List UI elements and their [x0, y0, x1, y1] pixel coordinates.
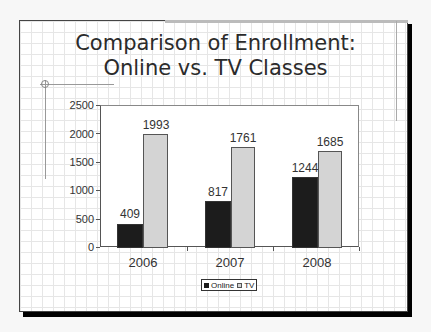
- legend-swatch-tv: [237, 283, 242, 288]
- y-tick: [96, 190, 100, 191]
- y-tick: [96, 105, 100, 106]
- guide-line-right: [396, 21, 397, 121]
- y-tick: [96, 247, 100, 248]
- y-tick: [96, 219, 100, 220]
- data-label: 817: [198, 185, 238, 199]
- slide-top-edge: [165, 20, 408, 23]
- y-tick: [96, 133, 100, 134]
- legend-swatch-online: [204, 283, 209, 288]
- slide-title: Comparison of Enrollment: Online vs. TV …: [40, 31, 391, 81]
- slide-shadow-bottom: [23, 312, 412, 317]
- slide-shadow-right: [408, 24, 412, 317]
- y-tick-label: 1000: [64, 184, 94, 196]
- x-tick: [359, 247, 360, 251]
- crosshair-icon: [41, 80, 49, 88]
- y-tick-label: 500: [64, 213, 94, 225]
- bar-online-2006: [117, 224, 143, 248]
- chart-legend: Online TV: [201, 279, 257, 291]
- x-category-label: 2006: [113, 255, 173, 270]
- legend-label-tv: TV: [244, 281, 254, 290]
- y-tick: [96, 162, 100, 163]
- data-label: 1244: [285, 161, 325, 175]
- x-category-label: 2007: [200, 255, 260, 270]
- bar-online-2007: [205, 201, 231, 248]
- y-tick-label: 1500: [64, 156, 94, 168]
- y-tick-label: 0: [64, 241, 94, 253]
- legend-label-online: Online: [211, 281, 234, 290]
- guide-line-vertical: [45, 80, 46, 179]
- y-tick-label: 2000: [64, 128, 94, 140]
- data-label: 1685: [310, 135, 350, 149]
- data-label: 409: [110, 207, 150, 221]
- guide-line-horizontal: [40, 84, 114, 85]
- data-label: 1993: [136, 118, 176, 132]
- x-category-label: 2008: [287, 255, 347, 270]
- title-line-1: Comparison of Enrollment:: [40, 31, 391, 56]
- bar-tv-2006: [143, 134, 168, 248]
- bar-online-2008: [292, 177, 318, 248]
- y-tick-label: 2500: [64, 99, 94, 111]
- x-tick: [187, 247, 188, 251]
- x-tick: [273, 247, 274, 251]
- title-line-2: Online vs. TV Classes: [40, 56, 391, 81]
- data-label: 1761: [223, 131, 263, 145]
